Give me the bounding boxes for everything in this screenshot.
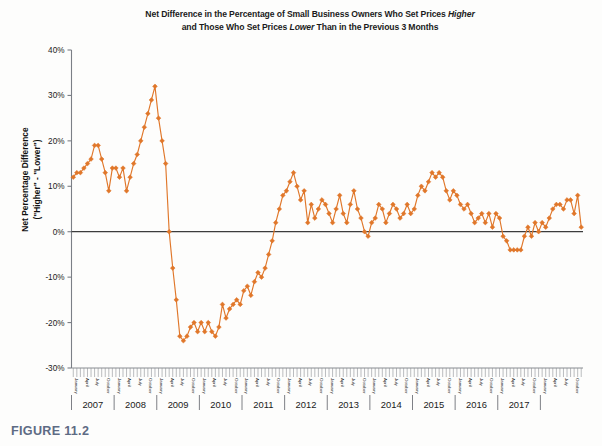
x-axis-month-label: April [340,378,345,387]
data-point-marker [490,225,495,230]
y-axis: 40%30%20%10%0%-10%-20%-30% [45,46,71,373]
data-point-marker [316,207,321,212]
data-point-marker [384,220,389,225]
data-point-marker [270,238,275,243]
figure-caption: FIGURE 11.2 [11,424,89,438]
data-point-marker [572,211,577,216]
data-point-marker [348,202,353,207]
data-point-marker [156,116,161,121]
data-point-marker [444,188,449,193]
x-axis-year-label: 2007 [82,399,103,410]
data-point-marker [302,188,307,193]
data-point-marker [103,170,108,175]
data-point-marker [334,207,339,212]
x-axis-month-label: October [191,378,196,394]
data-point-marker [536,229,541,234]
x-axis-month-label: January [458,378,463,394]
data-point-marker [522,234,527,239]
x-axis-month-label: April [255,378,260,387]
x-axis-month-label: July [564,378,569,387]
x-axis-month-label: October [489,378,494,394]
data-point-marker [487,211,492,216]
data-point-marker [121,166,126,171]
x-axis-year-label: 2015 [423,399,444,410]
x-axis-month-label: October [362,378,367,394]
data-point-marker [96,143,101,148]
x-axis-month-label: July [266,378,271,387]
data-point-marker [195,329,200,334]
data-point-marker [167,229,172,234]
data-point-marker [359,216,364,221]
data-point-marker [341,211,346,216]
x-axis-month-label: April [426,378,431,387]
x-axis-month-label: October [404,378,409,394]
x-axis-month-label: April [468,378,473,387]
x-axis-month-label: July [180,378,185,387]
data-point-marker [327,211,332,216]
x-axis-month-label: October [532,378,537,394]
data-point-marker [114,166,119,171]
data-point-marker [469,211,474,216]
x-axis-year-label: 2014 [381,399,402,410]
data-point-marker [266,252,271,257]
x-axis-year-label: 2008 [125,399,146,410]
data-point-marker [426,179,431,184]
y-axis-tick-label: -20% [45,319,64,328]
data-point-marker [337,193,342,198]
data-point-marker [135,152,140,157]
y-axis-tick-label: 0% [53,228,65,237]
data-point-marker [138,139,143,144]
x-axis-month-label: January [117,378,122,394]
x-axis-month-label: April [383,378,388,387]
data-point-marker [252,279,257,284]
x-axis-month-label: October [447,378,452,394]
x-axis-year-label: 2016 [466,399,487,410]
y-axis-tick-label: 30% [48,91,64,100]
x-axis-month-label: October [319,378,324,394]
data-point-marker [415,193,420,198]
data-point-marker [142,125,147,130]
y-axis-tick-label: -10% [45,273,64,282]
data-point-marker [131,161,136,166]
data-point-marker [526,225,531,230]
x-axis-month-label: October [234,378,239,394]
chart-plot-area: 40%30%20%10%0%-10%-20%-30% JanuaryAprilJ… [0,0,602,446]
x-axis-month-label: July [436,378,441,387]
x-axis-month-label: July [394,378,399,387]
data-point-marker [273,220,278,225]
data-point-marker [206,320,211,325]
data-point-marker [330,220,335,225]
data-point-marker [106,188,111,193]
x-axis-month-label: July [95,378,100,387]
data-point-marker [575,193,580,198]
x-axis-month-label: July [308,378,313,387]
x-axis-month-label: April [127,378,132,387]
y-axis-tick-label: -30% [45,364,64,373]
data-point-marker [149,98,154,103]
x-axis-month-label: January [287,378,292,394]
data-point-marker [291,170,296,175]
data-point-marker [298,198,303,203]
x-axis-year-label: 2010 [210,399,231,410]
x-axis-month-label: January [159,378,164,394]
x-axis-month-label: April [85,378,90,387]
data-point-marker [483,220,488,225]
y-axis-tick-label: 40% [48,46,64,55]
data-point-marker [355,207,360,212]
data-point-marker [277,207,282,212]
data-point-marker [249,293,254,298]
x-axis-month-label: April [553,378,558,387]
data-point-marker [344,220,349,225]
data-point-marker [99,157,104,162]
data-point-marker [124,188,129,193]
x-axis-year-label: 2011 [253,399,273,410]
data-series-line [71,84,584,343]
data-point-marker [170,266,175,271]
x-axis-month-label: July [521,378,526,387]
data-point-marker [174,298,179,303]
data-point-marker [568,198,573,203]
y-axis-tick-label: 20% [48,137,64,146]
x-axis-month-label: January [244,378,249,394]
data-point-marker [117,175,122,180]
data-point-marker [387,211,392,216]
